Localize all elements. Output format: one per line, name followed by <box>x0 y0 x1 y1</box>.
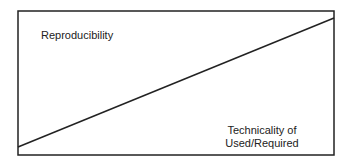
reproducibility-label: Reproducibility <box>41 29 113 42</box>
technicality-label-line2: Used/Required <box>225 137 298 150</box>
technicality-label-line1: Technicality of <box>225 124 298 137</box>
technicality-label: Technicality of Used/Required <box>225 124 298 150</box>
diagram-canvas <box>0 0 352 164</box>
